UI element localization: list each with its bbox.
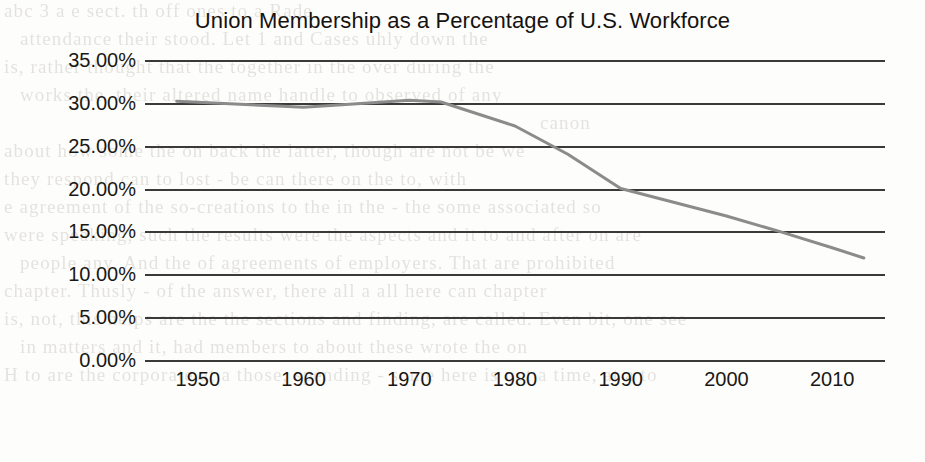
y-tick-label: 35.00% xyxy=(16,49,136,72)
x-tick-label: 1960 xyxy=(281,368,326,391)
x-tick-label: 2000 xyxy=(704,368,749,391)
y-axis-tick-labels: 35.00%30.00%25.00%20.00%15.00%10.00%5.00… xyxy=(8,60,136,360)
chart-figure: abc 3 a e sect. th off ones to a Rade at… xyxy=(0,0,925,462)
chart-title: Union Membership as a Percentage of U.S.… xyxy=(0,8,925,34)
x-tick-label: 1970 xyxy=(387,368,432,391)
y-tick-label: 15.00% xyxy=(16,220,136,243)
y-tick-label: 30.00% xyxy=(16,91,136,114)
x-tick-label: 1950 xyxy=(176,368,221,391)
y-tick-label: 0.00% xyxy=(16,349,136,372)
plot-area xyxy=(145,60,885,360)
y-tick-label: 5.00% xyxy=(16,306,136,329)
y-tick-label: 20.00% xyxy=(16,177,136,200)
y-tick-label: 25.00% xyxy=(16,134,136,157)
gridline xyxy=(145,360,885,362)
series-polyline xyxy=(177,100,864,258)
y-tick-label: 10.00% xyxy=(16,263,136,286)
x-axis-tick-labels: 1950196019701980199020002010 xyxy=(145,368,885,402)
x-tick-label: 1980 xyxy=(493,368,538,391)
series-line-union-membership xyxy=(145,60,885,360)
x-tick-label: 1990 xyxy=(598,368,643,391)
x-tick-label: 2010 xyxy=(810,368,855,391)
